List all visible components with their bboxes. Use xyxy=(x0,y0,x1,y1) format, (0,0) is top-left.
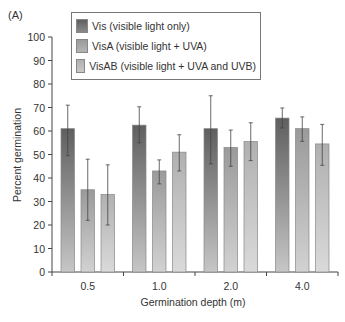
y-tick-label: 0 xyxy=(39,266,45,278)
y-tick-label: 40 xyxy=(33,172,45,184)
bar xyxy=(296,129,310,272)
bar xyxy=(133,125,147,272)
legend-swatch xyxy=(76,59,85,73)
legend-item: VisAB (visible light + UVA and UVB) xyxy=(76,56,256,76)
legend-label: VisAB (visible light + UVA and UVB) xyxy=(89,60,256,72)
legend-swatch xyxy=(76,39,88,53)
legend-swatch xyxy=(76,19,88,33)
x-axis-title: Germination depth (m) xyxy=(140,296,245,308)
y-tick-label: 50 xyxy=(33,149,45,161)
x-tick-label: 4.0 xyxy=(295,280,310,292)
y-axis-title: Percent germination xyxy=(11,108,23,202)
y-tick-label: 90 xyxy=(33,55,45,67)
bar xyxy=(153,171,167,272)
legend-item: VisA (visible light + UVA) xyxy=(76,36,256,56)
y-tick-label: 70 xyxy=(33,102,45,114)
bar xyxy=(276,118,290,272)
y-tick-label: 10 xyxy=(33,243,45,255)
y-tick-label: 80 xyxy=(33,78,45,90)
x-tick-label: 2.0 xyxy=(223,280,238,292)
y-tick-label: 60 xyxy=(33,125,45,137)
x-tick-label: 1.0 xyxy=(152,280,167,292)
x-tick-label: 0.5 xyxy=(80,280,95,292)
legend-label: Vis (visible light only) xyxy=(92,20,190,32)
y-tick-label: 30 xyxy=(33,196,45,208)
y-tick-label: 100 xyxy=(27,31,45,43)
legend: Vis (visible light only)VisA (visible li… xyxy=(71,12,261,80)
legend-label: VisA (visible light + UVA) xyxy=(92,40,207,52)
bars xyxy=(61,96,329,272)
bar xyxy=(244,142,258,272)
legend-item: Vis (visible light only) xyxy=(76,16,256,36)
y-tick-label: 20 xyxy=(33,219,45,231)
